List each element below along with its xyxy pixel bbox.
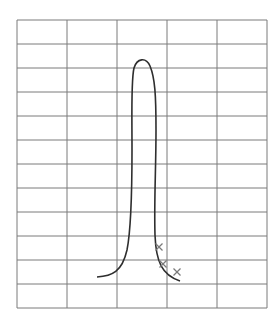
grid — [17, 20, 267, 308]
diagram-canvas — [0, 0, 280, 329]
peak-curve — [97, 60, 180, 281]
cross-marker-icon — [174, 269, 181, 276]
